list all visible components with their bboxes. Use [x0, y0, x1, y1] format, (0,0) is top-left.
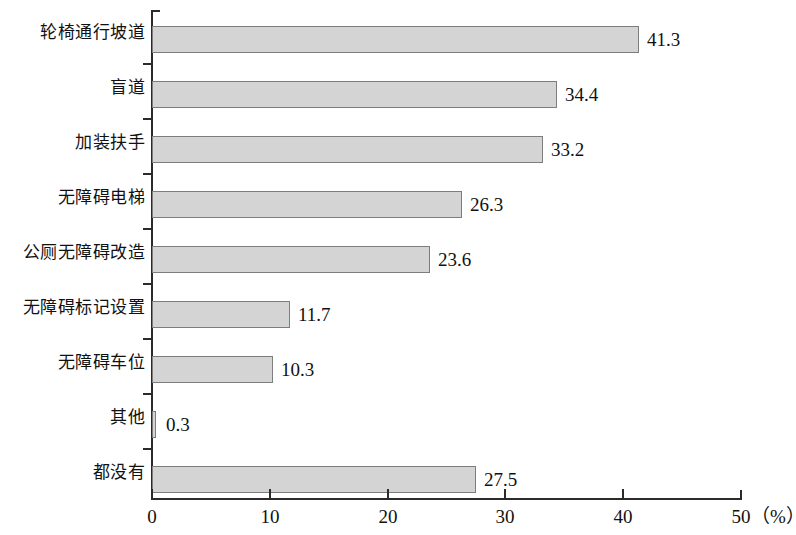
plot-area: 41.3 34.4 33.2 26.3 23.6 11.7 10.3 0.3 2…	[151, 10, 742, 500]
bar-value-label: 11.7	[298, 305, 331, 324]
x-axis-tick-label: 20	[379, 507, 398, 526]
x-axis-tick-label: 40	[614, 507, 633, 526]
bar-value-label: 41.3	[647, 30, 680, 49]
y-axis-tick	[143, 228, 151, 230]
x-axis-tick-label: 50	[732, 507, 751, 526]
x-axis-unit-label: （%）	[751, 507, 796, 526]
x-axis-tick-label: 30	[496, 507, 515, 526]
category-label: 都没有	[93, 463, 146, 483]
category-label: 轮椅通行坡道	[40, 23, 145, 43]
x-axis-tick	[622, 489, 624, 499]
x-axis-tick	[269, 489, 271, 499]
x-axis-tick-label: 10	[261, 507, 280, 526]
category-label: 公厕无障碍改造	[23, 243, 146, 263]
category-label: 加装扶手	[75, 133, 145, 153]
y-axis-tick	[143, 118, 151, 120]
category-label: 盲道	[110, 78, 145, 98]
bar	[152, 191, 462, 218]
bar	[152, 356, 273, 383]
bar-value-label: 34.4	[565, 85, 598, 104]
x-axis-line	[151, 498, 742, 500]
y-axis-tick	[143, 338, 151, 340]
category-label: 其他	[110, 408, 145, 428]
y-axis-tick	[143, 448, 151, 450]
y-axis-tick	[143, 283, 151, 285]
x-axis-tick	[151, 489, 153, 499]
bar	[152, 301, 290, 328]
bar	[152, 411, 156, 438]
y-axis-tick	[143, 393, 151, 395]
category-label: 无障碍标记设置	[23, 298, 146, 318]
bar	[152, 81, 557, 108]
bar-value-label: 10.3	[281, 360, 314, 379]
bar-value-label: 33.2	[551, 140, 584, 159]
category-label: 无障碍车位	[58, 353, 146, 373]
category-label: 无障碍电梯	[58, 188, 146, 208]
horizontal-bar-chart: 轮椅通行坡道 盲道 加装扶手 无障碍电梯 公厕无障碍改造 无障碍标记设置 无障碍…	[0, 0, 796, 535]
y-axis-tick	[143, 63, 151, 65]
x-axis-tick	[387, 489, 389, 499]
y-axis-tick	[143, 173, 151, 175]
bar-value-label: 26.3	[470, 195, 503, 214]
x-axis-tick-label: 0	[147, 507, 157, 526]
bar	[152, 466, 476, 493]
bar-value-label: 0.3	[166, 415, 190, 434]
bar	[152, 136, 543, 163]
bar-value-label: 27.5	[484, 470, 517, 489]
bar	[152, 246, 430, 273]
bar	[152, 26, 639, 53]
x-axis-end-cap	[740, 490, 742, 500]
y-axis-top-cap	[151, 10, 160, 12]
x-axis-tick	[504, 489, 506, 499]
bar-value-label: 23.6	[438, 250, 471, 269]
